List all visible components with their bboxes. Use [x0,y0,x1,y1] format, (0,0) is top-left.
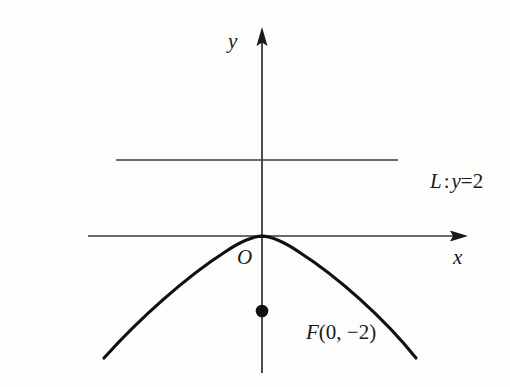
directrix-separator: : [442,169,452,193]
y-axis-label: y [228,31,237,52]
directrix-equation-variable: y [452,169,461,193]
directrix-label: L:y=2 [409,150,483,213]
focus-name: F [306,320,319,344]
directrix-name: L [430,169,442,193]
focus-coordinates: (0, −2) [319,320,376,344]
focus-label: F(0, −2) [285,301,376,364]
x-axis-label: x [453,247,462,268]
y-axis [257,27,268,373]
origin-label: O [237,247,252,268]
parabola-figure: y x O L:y=2 F(0, −2) [0,0,510,387]
focus-point-marker [256,305,269,318]
directrix-equation-rest: =2 [461,169,483,193]
